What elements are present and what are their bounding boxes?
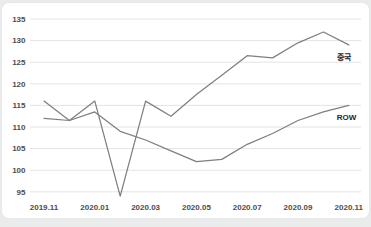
y-axis-tick-label: 130 [12, 36, 26, 45]
y-axis-tick-label: 110 [13, 123, 26, 132]
y-axis-tick-label: 115 [13, 101, 26, 110]
y-axis-tick-label: 95 [17, 188, 26, 197]
y-axis-tick-label: 100 [12, 166, 26, 175]
x-axis-tick-label: 2020.09 [284, 203, 313, 212]
x-axis-tick-label: 2020.03 [131, 203, 160, 212]
y-axis-tick-label: 105 [12, 144, 26, 153]
x-axis-tick-label: 2019.11 [30, 203, 59, 212]
y-axis-tick-label: 125 [12, 58, 26, 67]
series-label-0: 중국 [337, 53, 352, 62]
x-axis-tick-label: 2020.01 [80, 203, 109, 212]
y-axis-tick-label: 120 [12, 80, 26, 89]
x-axis-tick-label: 2020.11 [335, 203, 364, 212]
x-axis-tick-label: 2020.07 [233, 203, 262, 212]
y-axis-tick-label: 135 [12, 15, 26, 24]
series-label-1: ROW [337, 113, 357, 122]
series-line-1 [44, 105, 349, 161]
line-chart: 951001051101151201251301352019.112020.01… [0, 0, 371, 227]
x-axis-tick-label: 2020.05 [182, 203, 211, 212]
